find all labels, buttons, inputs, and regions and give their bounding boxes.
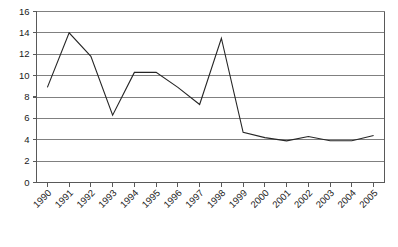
y-tick-label-4: 4 xyxy=(24,134,29,145)
y-tick-label-10: 10 xyxy=(19,70,30,81)
x-tick-label-1993: 1993 xyxy=(96,187,119,210)
x-tick-label-1995: 1995 xyxy=(139,187,162,210)
x-tick-label-1994: 1994 xyxy=(118,187,141,210)
x-tick-label-1991: 1991 xyxy=(52,187,75,210)
y-tick-label-8: 8 xyxy=(24,91,29,102)
x-tick-label-2005: 2005 xyxy=(357,187,380,210)
x-tick-label-2000: 2000 xyxy=(248,187,271,210)
y-tick-label-0: 0 xyxy=(24,177,29,188)
x-tick-label-2002: 2002 xyxy=(292,187,315,210)
x-tick-label-1996: 1996 xyxy=(161,187,184,210)
chart-plot-svg: 0246810121416 19901991199219931994199519… xyxy=(0,0,398,247)
x-tick-label-1998: 1998 xyxy=(205,187,228,210)
gridlines-group xyxy=(37,12,385,162)
x-tick-label-1992: 1992 xyxy=(74,187,97,210)
x-tick-label-2001: 2001 xyxy=(270,187,293,210)
data-line-series-0 xyxy=(47,33,373,141)
x-tick-labels-group: 1990199119921993199419951996199719981999… xyxy=(31,187,380,210)
y-tick-label-12: 12 xyxy=(19,48,30,59)
line-chart-figure: 0246810121416 19901991199219931994199519… xyxy=(0,0,398,247)
x-tick-label-1999: 1999 xyxy=(226,187,249,210)
y-tick-labels-group: 0246810121416 xyxy=(19,6,30,188)
x-tick-label-1997: 1997 xyxy=(183,187,206,210)
x-tick-label-1990: 1990 xyxy=(31,187,54,210)
x-tick-label-2003: 2003 xyxy=(313,187,336,210)
y-tick-label-14: 14 xyxy=(19,27,30,38)
y-tick-label-16: 16 xyxy=(19,6,30,17)
data-series-group xyxy=(47,33,373,141)
y-tick-label-2: 2 xyxy=(24,155,29,166)
x-axis-group xyxy=(37,183,385,187)
y-tick-label-6: 6 xyxy=(24,112,29,123)
x-tick-label-2004: 2004 xyxy=(335,187,358,210)
